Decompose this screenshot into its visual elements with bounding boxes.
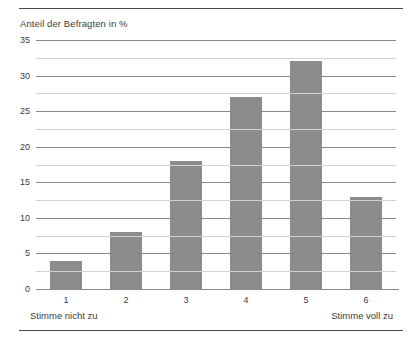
x-axis-tick-label: 1 bbox=[63, 295, 68, 305]
y-axis-tick-label: 25 bbox=[20, 106, 30, 116]
y-axis-tick-label: 20 bbox=[20, 142, 30, 152]
gridline-minor bbox=[36, 129, 396, 130]
gridline-major bbox=[36, 182, 396, 183]
x-axis-tick-label: 6 bbox=[363, 295, 368, 305]
gridline-major bbox=[36, 111, 396, 112]
chart-axis-title: Anteil der Befragten in % bbox=[20, 18, 128, 29]
gridline-minor bbox=[36, 93, 396, 94]
bottom-rule bbox=[19, 330, 403, 331]
x-axis-tick-labels: 123456 bbox=[36, 295, 396, 311]
gridline-major bbox=[36, 253, 396, 254]
bar bbox=[230, 97, 263, 289]
bar bbox=[110, 232, 143, 289]
gridline-minor bbox=[36, 58, 396, 59]
scale-label-left: Stimme nicht zu bbox=[30, 310, 98, 321]
y-axis-tick-label: 15 bbox=[20, 177, 30, 187]
x-axis-tick-label: 5 bbox=[303, 295, 308, 305]
gridline-major bbox=[36, 76, 396, 77]
y-axis-tick-label: 0 bbox=[25, 284, 30, 294]
x-axis-tick-label: 3 bbox=[183, 295, 188, 305]
gridline-minor bbox=[36, 200, 396, 201]
gridline-minor bbox=[36, 165, 396, 166]
bar bbox=[290, 61, 323, 289]
y-axis-tick-label: 30 bbox=[20, 71, 30, 81]
x-axis-tick-label: 2 bbox=[123, 295, 128, 305]
gridline-major bbox=[36, 147, 396, 148]
x-axis-tick-label: 4 bbox=[243, 295, 248, 305]
chart-figure: Anteil der Befragten in % 05101520253035… bbox=[0, 0, 415, 339]
y-axis-tick-label: 10 bbox=[20, 213, 30, 223]
gridline-minor bbox=[36, 271, 396, 272]
gridline-major bbox=[36, 40, 396, 41]
scale-label-right: Stimme voll zu bbox=[331, 310, 393, 321]
plot-area: 05101520253035 bbox=[36, 40, 396, 289]
y-axis-tick-label: 35 bbox=[20, 35, 30, 45]
y-axis-tick-label: 5 bbox=[25, 248, 30, 258]
bar bbox=[350, 197, 383, 289]
top-rule bbox=[19, 8, 403, 9]
axis-baseline bbox=[36, 289, 399, 290]
bar bbox=[50, 261, 83, 289]
gridline-minor bbox=[36, 236, 396, 237]
gridline-major bbox=[36, 218, 396, 219]
bar bbox=[170, 161, 203, 289]
